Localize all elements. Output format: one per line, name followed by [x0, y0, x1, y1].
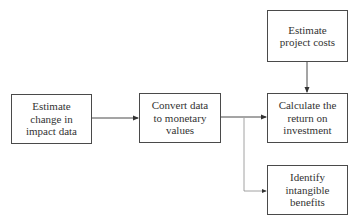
arrow-n2-to-n5: [244, 118, 266, 191]
node-convert-data-monetary: Convert data to monetary values: [139, 93, 221, 143]
node-label: Estimate change in impact data: [26, 100, 77, 138]
node-identify-intangible-benefits: Identify intangible benefits: [267, 165, 348, 215]
node-estimate-project-costs: Estimate project costs: [267, 10, 348, 62]
node-label: Convert data to monetary values: [152, 99, 209, 137]
node-estimate-change-impact-data: Estimate change in impact data: [11, 94, 92, 144]
node-label: Estimate project costs: [280, 24, 335, 49]
node-calculate-roi: Calculate the return on investment: [267, 93, 348, 143]
node-label: Calculate the return on investment: [279, 99, 337, 137]
node-label: Identify intangible benefits: [286, 171, 330, 209]
